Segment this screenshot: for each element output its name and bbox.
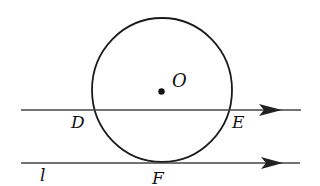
label-d: D — [70, 112, 85, 132]
center-point-o — [158, 88, 164, 94]
label-l: l — [40, 165, 45, 185]
label-e: E — [231, 112, 245, 132]
geometry-figure: O D E F l — [0, 0, 320, 186]
label-f: F — [151, 168, 165, 186]
label-o: O — [172, 70, 187, 91]
